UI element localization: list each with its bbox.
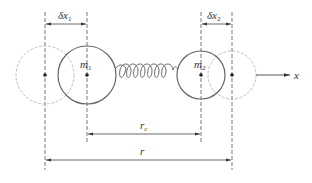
- m1-original-center: [43, 73, 47, 77]
- m1-center: [85, 73, 89, 77]
- m2-displaced-center: [230, 73, 234, 77]
- m1-label: m1: [80, 58, 92, 72]
- m2-label: m2: [194, 58, 206, 72]
- spring: [116, 64, 178, 78]
- x-axis-label: x: [293, 69, 299, 81]
- spring-mass-diagram: δx1 δx2 m1 m2 x rc r: [0, 0, 312, 183]
- delta-x2-label: δx2: [207, 9, 221, 23]
- m2-center: [199, 73, 203, 77]
- reference-lines: [45, 12, 232, 170]
- r-label: r: [140, 145, 145, 157]
- rc-label: rc: [140, 119, 147, 133]
- delta-x1-label: δx1: [58, 9, 72, 23]
